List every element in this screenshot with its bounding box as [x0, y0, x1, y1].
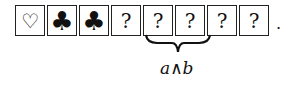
- card-unknown: ?: [143, 5, 173, 36]
- club-icon: ♣: [50, 8, 73, 34]
- question-mark: ?: [185, 11, 196, 31]
- card-unknown: ?: [207, 5, 237, 36]
- card-unknown: ?: [111, 5, 141, 36]
- heart-icon: ♡: [21, 11, 39, 31]
- question-mark: ?: [249, 11, 260, 31]
- card-club: ♣: [79, 5, 109, 36]
- brace-label: a∧b: [160, 58, 193, 78]
- card-unknown: ?: [239, 5, 269, 36]
- question-mark: ?: [121, 11, 132, 31]
- underbrace: [145, 34, 211, 56]
- card-club: ♣: [47, 5, 77, 36]
- period: .: [276, 14, 281, 33]
- card-heart: ♡: [15, 5, 45, 36]
- question-mark: ?: [217, 11, 228, 31]
- club-icon: ♣: [82, 8, 105, 34]
- card-unknown: ?: [175, 5, 205, 36]
- card-sequence: ♡ ♣ ♣ ? ? ? ? ?: [15, 5, 269, 36]
- question-mark: ?: [153, 11, 164, 31]
